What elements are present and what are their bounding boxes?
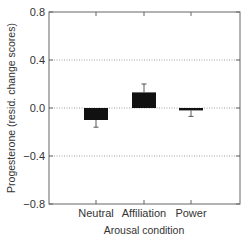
bar-power: [179, 108, 203, 110]
x-tick-label: Power: [175, 207, 207, 219]
y-tick-label: −0.4: [23, 150, 45, 162]
bar-neutral: [84, 108, 108, 120]
y-axis-title: Progesterone (resid. change scores): [5, 23, 17, 193]
y-tick-label: 0.4: [30, 54, 45, 66]
plot-area: 0.80.40.0−0.4−0.8NeutralAffiliationPower: [23, 6, 240, 219]
x-tick-label: Neutral: [78, 207, 113, 219]
x-axis-title: Arousal condition: [104, 224, 185, 236]
y-tick-label: 0.8: [30, 6, 45, 18]
x-tick-label: Affiliation: [122, 207, 166, 219]
bar-chart: 0.80.40.0−0.4−0.8NeutralAffiliationPower…: [0, 0, 247, 243]
y-tick-label: −0.8: [23, 198, 45, 210]
y-tick-label: 0.0: [30, 102, 45, 114]
bar-affiliation: [132, 92, 156, 108]
